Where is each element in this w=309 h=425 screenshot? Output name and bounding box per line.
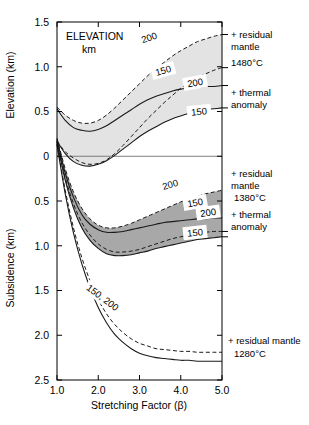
curve-label-text: 150: [191, 105, 208, 118]
curve-label-1480-ta-150: 150: [186, 104, 211, 119]
annotation-thermal-upper-line1: + thermal: [231, 87, 271, 98]
annotation-thermal-lower-line1: + thermal: [231, 209, 271, 220]
y-tick-label: 1.5: [34, 16, 49, 28]
annotation-1480-line3: 1480°C: [231, 57, 263, 68]
annotation-1480-line2: mantle: [231, 41, 260, 52]
y-tick-label: 2.0: [34, 329, 49, 341]
y-tick-label: 1.5: [34, 284, 49, 296]
panel-title-elevation: ELEVATION: [66, 30, 123, 42]
curve-label-1380-ta-150: 150: [182, 225, 207, 240]
curve-label-text: 200: [199, 206, 216, 219]
annotation-1480-line1: + residual: [231, 29, 272, 40]
chart-figure: 1.51.00.500.51.01.52.02.51.02.03.04.05.0…: [0, 0, 309, 425]
annotation-thermal-upper-line2: anomaly: [231, 99, 267, 110]
x-tick-label: 2.0: [91, 384, 106, 396]
y-tick-label: 0.5: [34, 195, 49, 207]
annotation-1280-line1: + residual mantle: [228, 335, 301, 346]
elevation-subsidence-chart: 1.51.00.500.51.01.52.02.51.02.03.04.05.0…: [0, 0, 309, 425]
x-tick-label: 4.0: [173, 384, 188, 396]
panel-title-elevation-unit: km: [82, 43, 96, 55]
annotation-1380-line2: mantle: [231, 180, 260, 191]
curve-label-text: 150: [187, 226, 204, 239]
y-tick-label: 1.0: [34, 61, 49, 73]
y-tick-label: 0: [43, 150, 49, 162]
x-tick-label: 1.0: [50, 384, 65, 396]
annotation-1280-line2: 1280°C: [234, 348, 266, 359]
y-tick-label: 2.5: [34, 374, 49, 386]
x-axis-title: Stretching Factor (β): [91, 399, 187, 411]
y-axis-title-lower: Subsidence (km): [4, 229, 16, 308]
y-axis-title-upper: Elevation (km): [4, 51, 16, 118]
annotation-thermal-lower-line2: anomaly: [231, 221, 267, 232]
annotation-1380-line1: + residual: [231, 168, 272, 179]
x-tick-label: 3.0: [132, 384, 147, 396]
x-tick-label: 5.0: [215, 384, 230, 396]
annotation-1380-line3: 1380°C: [234, 192, 266, 203]
y-tick-label: 1.0: [34, 240, 49, 252]
y-tick-label: 0.5: [34, 105, 49, 117]
